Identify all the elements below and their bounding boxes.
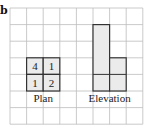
grid-figure: 4112 <box>0 0 145 130</box>
plan-cell-value: 4 <box>32 60 38 72</box>
plan-cell-value: 2 <box>49 77 55 89</box>
plan-label: Plan <box>18 92 68 104</box>
elevation-column <box>93 25 110 91</box>
elevation-label: Elevation <box>76 92 142 104</box>
plan-cell-value: 1 <box>32 77 38 89</box>
plan-cell-value: 1 <box>49 60 55 72</box>
